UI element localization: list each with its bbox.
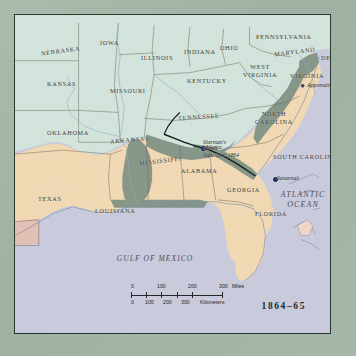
scale-tick [146, 292, 147, 298]
scale-mile-tick-100: 100 [157, 283, 166, 289]
scale-km-tick-100: 100 [145, 299, 154, 305]
city-marker-atlanta [201, 146, 206, 151]
scale-miles-unit: Miles [232, 283, 244, 289]
scale-mile-tick-0: 0 [131, 283, 134, 289]
scale-bar: 0 100 200 300 Miles 0 100 [131, 283, 249, 307]
scale-ruler [131, 292, 249, 298]
city-marker-savannah [273, 177, 278, 182]
battle-star-icon: ✸ [300, 83, 305, 89]
scale-tick [192, 292, 193, 298]
map-frame: NEBRASKAIOWAILLINOISINDIANAOHIOPENNSYLVA… [14, 14, 331, 334]
map-screenshot: NEBRASKAIOWAILLINOISINDIANAOHIOPENNSYLVA… [0, 0, 356, 356]
scale-miles-numbers: 0 100 200 300 Miles [131, 283, 249, 291]
scale-km-unit: Kilometers [200, 299, 225, 305]
scale-tick [161, 292, 162, 298]
scale-tick [177, 292, 178, 298]
scale-tick [131, 292, 132, 298]
scale-mile-tick-300: 300 [219, 283, 228, 289]
scale-mile-tick-200: 200 [188, 283, 197, 289]
map-date-caption: 1864–65 [262, 301, 306, 311]
scale-km-tick-200: 200 [163, 299, 172, 305]
scale-tick [222, 292, 223, 298]
scale-km-tick-0: 0 [131, 299, 134, 305]
scale-km-tick-300: 300 [181, 299, 190, 305]
scale-km-numbers: 0 100 200 300 Kilometers [131, 299, 249, 307]
map-canvas: NEBRASKAIOWAILLINOISINDIANAOHIOPENNSYLVA… [15, 15, 330, 333]
